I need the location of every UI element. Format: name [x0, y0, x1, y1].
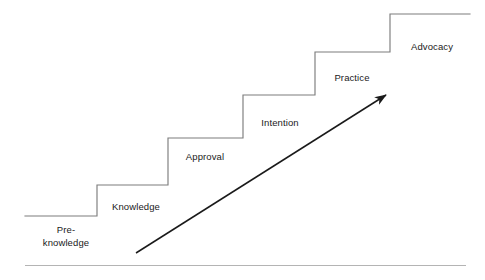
step-label-knowledge: Knowledge	[112, 201, 160, 214]
step-label-practice: Practice	[334, 72, 369, 85]
step-label-approval: Approval	[186, 151, 224, 164]
step-label-intention: Intention	[261, 117, 298, 130]
step-label-advocacy: Advocacy	[411, 41, 453, 54]
diagram-canvas: Pre- knowledge Knowledge Approval Intent…	[0, 0, 485, 280]
staircase-outline	[25, 14, 470, 216]
step-label-pre-knowledge: Pre- knowledge	[43, 224, 89, 249]
